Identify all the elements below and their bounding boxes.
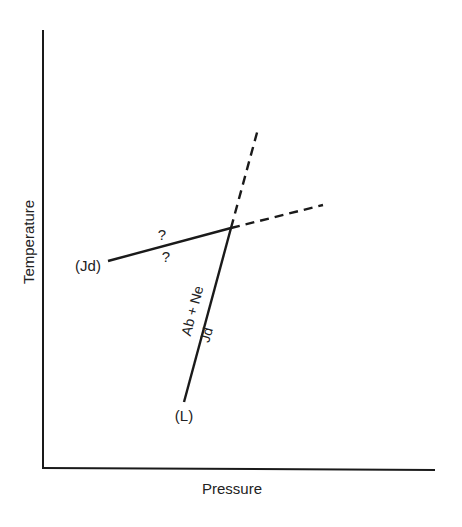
question-mark-below: ? bbox=[162, 248, 170, 265]
label-jd-end: (Jd) bbox=[75, 257, 101, 274]
metastable-extension-shallow bbox=[231, 205, 323, 228]
x-axis bbox=[42, 468, 435, 470]
metastable-extension-steep bbox=[231, 129, 258, 228]
x-axis-label: Pressure bbox=[202, 480, 262, 497]
reaction-label-lower: Jd bbox=[197, 325, 216, 343]
y-axis-label: Temperature bbox=[20, 200, 37, 284]
question-mark-above: ? bbox=[158, 226, 166, 243]
label-l-end: (L) bbox=[175, 407, 193, 424]
phase-diagram: Pressure Temperature (Jd) (L) ? ? Ab + N… bbox=[0, 0, 462, 527]
